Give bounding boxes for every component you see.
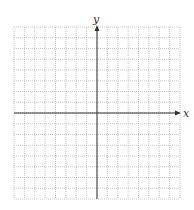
y-axis-label: y — [92, 13, 100, 26]
axes — [14, 25, 181, 199]
coordinate-plane: x y — [0, 0, 194, 210]
x-axis-label: x — [183, 107, 190, 120]
